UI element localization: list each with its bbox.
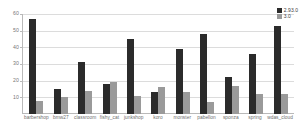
bar	[281, 94, 288, 114]
bar	[36, 101, 43, 114]
bar-group	[269, 14, 293, 114]
legend-swatch-icon	[277, 14, 282, 19]
legend-swatch-icon	[277, 8, 282, 13]
y-axis-tick-label: 50	[3, 28, 19, 33]
x-axis-tick-label: koro	[146, 116, 170, 121]
bar-group	[171, 14, 195, 114]
x-axis-tick-label: bmw27	[49, 116, 73, 121]
bar-group	[195, 14, 219, 114]
bar	[29, 19, 36, 114]
bar	[176, 49, 183, 114]
x-axis-tick-label: monster	[170, 116, 194, 121]
bar-series-container	[23, 14, 294, 114]
bar	[207, 102, 214, 114]
bar	[200, 34, 207, 114]
x-axis-tick-label: pabellon	[194, 116, 218, 121]
chart-legend: 2.93.03.0	[277, 8, 298, 19]
x-axis-tick-label: classroom	[73, 116, 97, 121]
x-axis-labels: barbershopbmw27classroomfishy_catjunksho…	[23, 116, 294, 121]
bar	[232, 86, 239, 114]
bar-chart: 102030405060 barbershopbmw27classroomfis…	[0, 0, 301, 133]
legend-item[interactable]: 3.0	[277, 14, 291, 19]
bar	[225, 77, 232, 114]
bar-group	[146, 14, 170, 114]
legend-label: 3.0	[284, 14, 291, 19]
y-axis-tick-label: 20	[3, 78, 19, 83]
bar-group	[48, 14, 72, 114]
bar	[134, 96, 141, 114]
bar	[78, 62, 85, 114]
bar-group	[24, 14, 48, 114]
bar-group	[244, 14, 268, 114]
y-axis-tick-label: 30	[3, 61, 19, 66]
bar	[249, 54, 256, 114]
bar	[274, 26, 281, 114]
bar-group	[122, 14, 146, 114]
bar-group	[220, 14, 244, 114]
bar-group	[97, 14, 121, 114]
bar-group	[73, 14, 97, 114]
y-axis-tick-label: 10	[3, 95, 19, 100]
y-axis-tick-label: 40	[3, 45, 19, 50]
bar	[85, 91, 92, 114]
bar	[103, 84, 110, 114]
bar	[110, 82, 117, 114]
x-axis-tick-label: sponza	[219, 116, 243, 121]
x-axis-tick-label: barbershop	[24, 116, 49, 121]
bar	[256, 94, 263, 114]
bar	[127, 39, 134, 114]
bar	[61, 97, 68, 114]
x-axis-tick-label: wdas_cloud	[267, 116, 293, 121]
y-axis-tick-label: 60	[3, 11, 19, 16]
bar	[158, 87, 165, 114]
x-axis-tick-label: spring	[243, 116, 267, 121]
bar	[151, 92, 158, 114]
bar	[183, 92, 190, 114]
x-axis-tick-label: junkshop	[122, 116, 146, 121]
x-axis-tick-label: fishy_cat	[97, 116, 121, 121]
bar	[54, 89, 61, 114]
